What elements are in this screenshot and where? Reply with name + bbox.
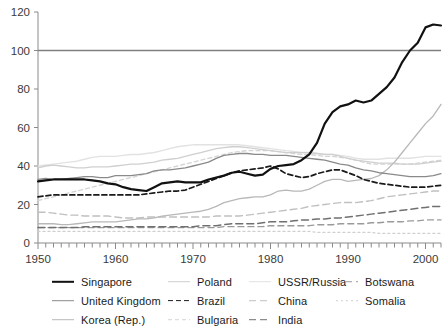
legend-item-somalia[interactable]: Somalia bbox=[336, 291, 414, 310]
y-axis-tick-labels: 020406080100120 bbox=[11, 6, 30, 249]
x-axis-minor-ticks bbox=[38, 243, 441, 249]
legend-label-somalia: Somalia bbox=[365, 295, 405, 307]
legend-label-united-kingdom: United Kingdom bbox=[81, 295, 161, 307]
legend-swatch-singapore bbox=[52, 277, 74, 287]
legend-label-china: China bbox=[278, 295, 307, 307]
legend-swatch-somalia bbox=[336, 296, 358, 306]
y-tick-label: 60 bbox=[17, 122, 30, 134]
y-axis-ticks bbox=[34, 12, 38, 243]
legend-label-korea-rep: Korea (Rep.) bbox=[81, 314, 145, 326]
legend-item-botswana[interactable]: Botswana bbox=[336, 272, 414, 291]
legend-item-bulgaria[interactable]: Bulgaria bbox=[168, 310, 238, 329]
y-tick-label: 0 bbox=[24, 237, 30, 249]
y-tick-label: 80 bbox=[17, 83, 30, 95]
y-tick-label: 120 bbox=[11, 6, 30, 18]
legend-column-2: PolandBrazilBulgaria bbox=[168, 272, 238, 329]
legend-column-3: USSR/RussiaChinaIndia bbox=[249, 272, 346, 329]
legend-label-botswana: Botswana bbox=[365, 276, 414, 288]
legend-swatch-united-kingdom bbox=[52, 296, 74, 306]
x-tick-label: 1950 bbox=[25, 253, 51, 265]
series-line-somalia bbox=[38, 231, 441, 233]
y-axis-group: 020406080100120 bbox=[11, 6, 38, 249]
legend-swatch-brazil bbox=[168, 296, 190, 306]
x-tick-label: 1970 bbox=[180, 253, 206, 265]
legend-item-india[interactable]: India bbox=[249, 310, 346, 329]
legend-label-bulgaria: Bulgaria bbox=[197, 314, 238, 326]
legend-swatch-botswana bbox=[336, 277, 358, 287]
series-line-bulgaria bbox=[38, 151, 441, 201]
legend-swatch-poland bbox=[168, 277, 190, 287]
legend-column-1: SingaporeUnited KingdomKorea (Rep.) bbox=[52, 272, 161, 329]
x-axis-tick-labels: 195019601970198019902000 bbox=[25, 253, 438, 265]
legend-item-korea-rep[interactable]: Korea (Rep.) bbox=[52, 310, 161, 329]
legend-item-singapore[interactable]: Singapore bbox=[52, 272, 161, 291]
x-tick-label: 1980 bbox=[258, 253, 284, 265]
x-tick-label: 1960 bbox=[103, 253, 129, 265]
legend-label-poland: Poland bbox=[197, 276, 232, 288]
series-line-singapore bbox=[38, 25, 441, 192]
chart-legend: SingaporeUnited KingdomKorea (Rep.)Polan… bbox=[0, 272, 447, 334]
legend-item-poland[interactable]: Poland bbox=[168, 272, 238, 291]
line-chart-plot: 020406080100120 195019601970198019902000 bbox=[0, 0, 447, 272]
legend-swatch-ussr-russia bbox=[249, 277, 271, 287]
y-tick-label: 100 bbox=[11, 45, 30, 57]
legend-item-brazil[interactable]: Brazil bbox=[168, 291, 238, 310]
data-series-group bbox=[38, 25, 441, 234]
y-tick-label: 40 bbox=[17, 160, 30, 172]
chart-figure: 020406080100120 195019601970198019902000… bbox=[0, 0, 447, 334]
legend-item-ussr-russia[interactable]: USSR/Russia bbox=[249, 272, 346, 291]
legend-swatch-china bbox=[249, 296, 271, 306]
legend-swatch-korea-rep bbox=[52, 315, 74, 325]
series-line-india bbox=[38, 206, 441, 227]
legend-swatch-bulgaria bbox=[168, 315, 190, 325]
legend-label-brazil: Brazil bbox=[197, 295, 225, 307]
x-tick-label: 1990 bbox=[335, 253, 361, 265]
x-axis-group: 195019601970198019902000 bbox=[25, 243, 441, 265]
legend-column-4: BotswanaSomalia bbox=[336, 272, 414, 310]
series-line-poland bbox=[38, 147, 441, 168]
legend-label-singapore: Singapore bbox=[81, 276, 132, 288]
legend-item-united-kingdom[interactable]: United Kingdom bbox=[52, 291, 161, 310]
legend-swatch-india bbox=[249, 315, 271, 325]
y-tick-label: 20 bbox=[17, 199, 30, 211]
legend-item-china[interactable]: China bbox=[249, 291, 346, 310]
x-tick-label: 2000 bbox=[413, 253, 439, 265]
legend-label-india: India bbox=[278, 314, 302, 326]
